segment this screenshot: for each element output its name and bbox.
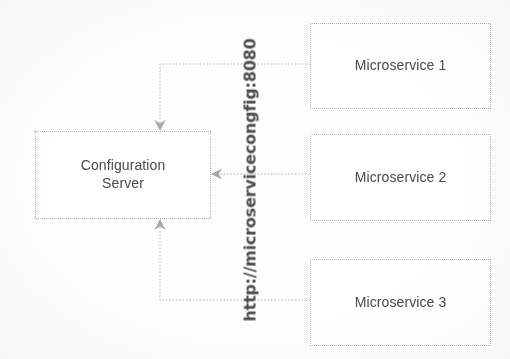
- edge-microservice-3-to-config-server: [160, 225, 310, 300]
- config-server-url-label: http://microservicecongfig:8080: [241, 38, 260, 321]
- node-microservice-2[interactable]: Microservice 2: [310, 134, 491, 221]
- node-configuration-server-label: Configuration Server: [81, 157, 166, 193]
- node-configuration-server[interactable]: Configuration Server: [35, 131, 211, 219]
- node-microservice-1[interactable]: Microservice 1: [310, 23, 491, 109]
- diagram-canvas: Configuration Server Microservice 1 Micr…: [0, 0, 510, 359]
- node-microservice-3-label: Microservice 3: [355, 294, 447, 312]
- node-microservice-3[interactable]: Microservice 3: [310, 259, 491, 346]
- node-microservice-1-label: Microservice 1: [355, 57, 447, 75]
- edge-microservice-1-to-config-server: [160, 64, 310, 126]
- node-microservice-2-label: Microservice 2: [355, 169, 447, 187]
